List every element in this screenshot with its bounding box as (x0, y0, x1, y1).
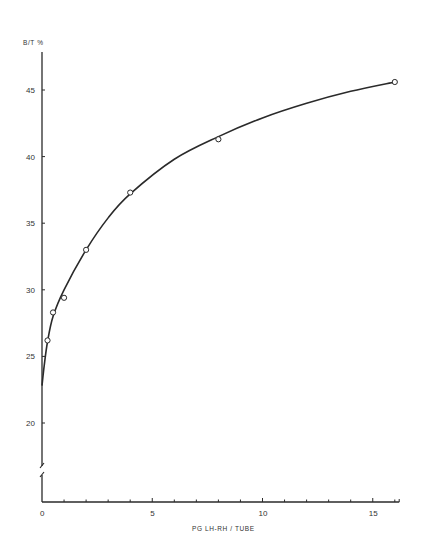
fit-curve-line (42, 82, 395, 386)
x-axis-label: PG LH-RH / TUBE (192, 525, 255, 532)
data-point-marker (61, 295, 66, 300)
x-tick-label: 5 (150, 509, 155, 518)
chart: 202530354045 051015 B/T % PG LH-RH / TUB… (0, 0, 432, 560)
y-axis: 202530354045 (26, 52, 45, 502)
y-tick-label: 40 (26, 153, 35, 162)
y-tick-label: 45 (26, 86, 35, 95)
data-point-marker (45, 338, 50, 343)
x-tick-label: 0 (40, 509, 45, 518)
x-tick-label: 10 (259, 509, 268, 518)
data-point-marker (84, 247, 89, 252)
data-point-marker (50, 310, 55, 315)
y-tick-label: 30 (26, 286, 35, 295)
x-tick-label: 15 (369, 509, 378, 518)
y-tick-label: 20 (26, 419, 35, 428)
data-point-marker (216, 137, 221, 142)
y-tick-label: 25 (26, 352, 35, 361)
data-point-marker (392, 79, 397, 84)
y-axis-label: B/T % (23, 39, 44, 46)
fit-curve (42, 82, 395, 386)
y-tick-label: 35 (26, 219, 35, 228)
data-points (45, 79, 397, 343)
x-axis: 051015 (40, 498, 399, 518)
data-point-marker (128, 190, 133, 195)
